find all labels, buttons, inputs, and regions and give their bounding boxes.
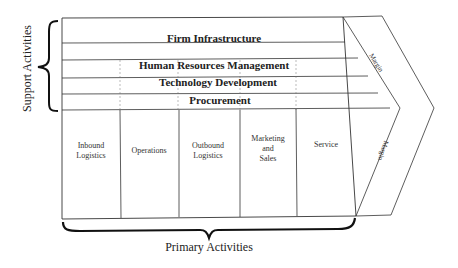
primary-activity-line: and [251,144,284,154]
margin-chevron [343,16,434,216]
primary-activity-line: Logistics [192,151,224,161]
primary-activity-line: Operations [131,146,166,156]
primary-activity-line: Outbound [192,141,224,151]
primary-activity-operations: Operations [131,146,166,156]
support-brace-icon [38,21,58,111]
primary-activity-marketing-and-sales: Marketing and Sales [251,134,284,164]
support-activity-human-resources: Human Resources Management [139,59,289,71]
primary-activity-inbound-logistics: Inbound Logistics [76,141,105,161]
support-activity-firm-infrastructure: Firm Infrastructure [167,32,261,44]
primary-activity-line: Marketing [251,134,284,144]
primary-activity-outbound-logistics: Outbound Logistics [192,141,224,161]
support-activity-procurement: Procurement [189,94,250,106]
primary-brace-icon [63,218,355,238]
primary-activity-service: Service [314,140,338,150]
value-chain-frame [62,17,356,219]
primary-activity-line: Logistics [76,151,105,161]
primary-activity-line: Sales [251,154,284,164]
primary-activity-line: Inbound [76,141,105,151]
support-activity-technology-development: Technology Development [159,76,277,88]
primary-activities-label: Primary Activities [165,240,253,255]
primary-activity-line: Service [314,140,338,150]
support-activities-label: Support Activities [20,25,35,112]
